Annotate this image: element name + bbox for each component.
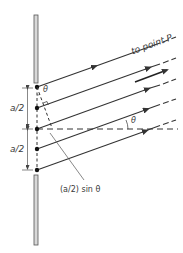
theta-label-horizontal: θ [131, 117, 136, 125]
half-width-bottom-label: a/2 [10, 145, 24, 154]
theta-arc-horizontal [126, 120, 128, 129]
path-difference-label: (a/2) sin θ [60, 186, 100, 194]
label-leader-line [50, 133, 84, 180]
theta-label-slit: θ [43, 86, 48, 94]
dimension-arrows [22, 88, 33, 170]
direction-arrow [135, 70, 167, 82]
half-width-top-label: a/2 [10, 104, 24, 113]
lower-slit-wall [34, 175, 38, 245]
rays [37, 37, 176, 170]
upper-slit-wall [34, 15, 38, 83]
